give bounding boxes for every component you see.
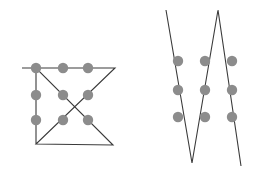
- grid-dot: [173, 112, 183, 122]
- grid-dot: [31, 115, 41, 125]
- grid-dot: [227, 112, 237, 122]
- grid-dot: [83, 90, 93, 100]
- nine-dots-figure: [0, 0, 254, 174]
- grid-dot: [83, 115, 93, 125]
- grid-dot: [58, 115, 68, 125]
- grid-dot: [227, 85, 237, 95]
- grid-dot: [31, 90, 41, 100]
- grid-dot: [200, 112, 210, 122]
- grid-dot: [200, 56, 210, 66]
- grid-dot: [58, 90, 68, 100]
- grid-dot: [173, 85, 183, 95]
- grid-dot: [173, 56, 183, 66]
- grid-dot: [58, 63, 68, 73]
- figure-background: [0, 0, 254, 174]
- grid-dot: [200, 85, 210, 95]
- grid-dot: [83, 63, 93, 73]
- grid-dot: [31, 63, 41, 73]
- grid-dot: [227, 56, 237, 66]
